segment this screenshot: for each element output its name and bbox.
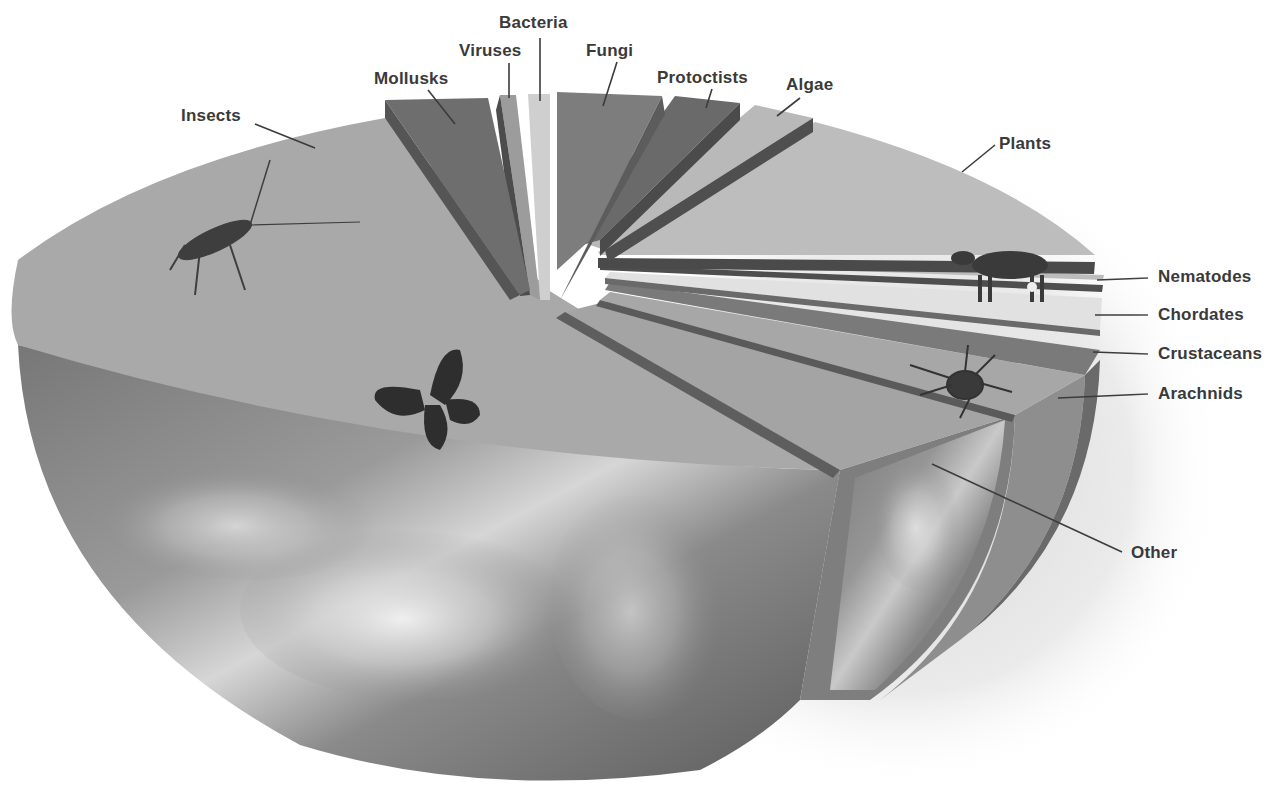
label-fungi: Fungi [586,41,633,61]
label-plants: Plants [999,134,1051,154]
label-bacteria: Bacteria [499,13,568,33]
label-arachnids: Arachnids [1158,384,1243,404]
label-mollusks: Mollusks [374,69,448,89]
label-crustaceans: Crustaceans [1158,344,1262,364]
label-nematodes: Nematodes [1158,267,1251,287]
species-pie-chart: Insects Mollusks Viruses Bacteria Fungi … [0,0,1287,799]
label-insects: Insects [181,106,241,126]
label-other: Other [1131,543,1177,563]
label-chordates: Chordates [1158,305,1244,325]
label-algae: Algae [786,75,833,95]
label-protoctists: Protoctists [657,68,748,88]
label-viruses: Viruses [459,41,522,61]
